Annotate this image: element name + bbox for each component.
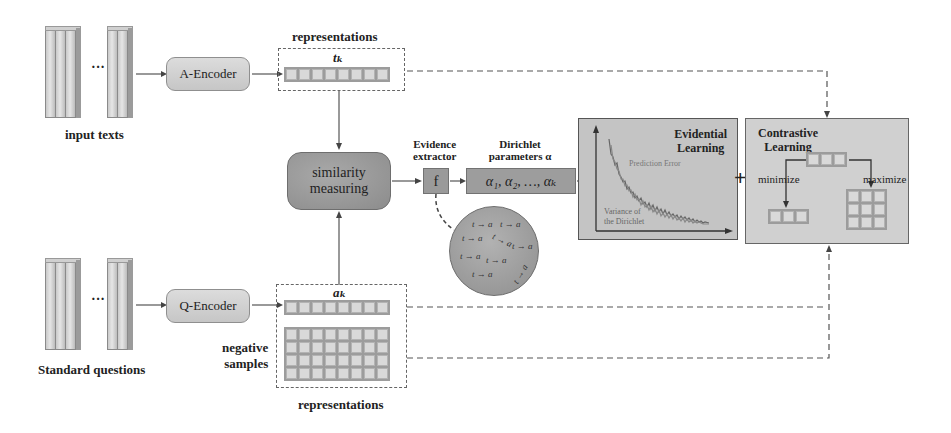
dashed-connectors-to-contrastive	[0, 0, 951, 433]
